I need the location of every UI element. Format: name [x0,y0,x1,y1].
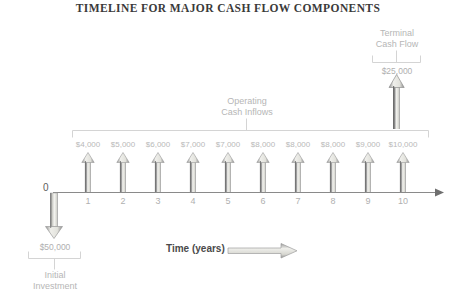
axis-tick-5: 5 [218,196,238,206]
inflow-arrow-1 [82,153,94,193]
initial-group-label: Initial Investment [15,270,95,292]
operating-bracket [73,119,429,138]
terminal-group-label-line1: Terminal [380,28,414,38]
initial-amount: $50,000 [29,242,81,252]
initial-investment-arrow [46,193,63,239]
amount-label-10: $10,000 [381,140,425,149]
amount-label-1: $4,000 [68,140,108,149]
amount-label-3: $6,000 [138,140,178,149]
operating-group-label-line2: Cash Inflows [221,107,273,117]
inflow-arrow-8 [327,153,339,193]
timeline-diagram: TIMELINE FOR MAJOR CASH FLOW COMPONENTS [0,0,456,303]
inflow-arrow-9 [362,153,374,193]
initial-bracket [29,252,81,270]
axis-tick-7: 7 [288,196,308,206]
inflow-arrow-3 [152,153,164,193]
terminal-cashflow-arrow [389,75,404,130]
terminal-amount: $25,000 [371,66,423,76]
amount-label-4: $7,000 [173,140,213,149]
axis-tick-10: 10 [393,196,413,206]
initial-group-label-line1: Initial [44,270,65,280]
axis-tick-9: 9 [358,196,378,206]
amount-label-2: $5,000 [103,140,143,149]
axis-tick-4: 4 [183,196,203,206]
amount-label-5: $7,000 [208,140,248,149]
initial-group-label-line2: Investment [33,281,77,291]
axis-tick-3: 3 [148,196,168,206]
time-axis [53,189,444,197]
inflow-arrow-2 [117,153,129,193]
inflow-arrow-5 [222,153,234,193]
operating-group-label-line1: Operating [227,96,267,106]
inflow-arrow-10 [397,153,409,193]
operating-inflow-arrows [82,153,409,193]
axis-tick-8: 8 [323,196,343,206]
time-direction-arrow [228,244,297,259]
time-axis-label: Time (years) [166,243,225,254]
amount-label-6: $8,000 [243,140,283,149]
axis-tick-1: 1 [78,196,98,206]
axis-zero-label: 0 [43,182,49,193]
terminal-group-label: Terminal Cash Flow [357,28,437,50]
inflow-arrow-7 [292,153,304,193]
axis-tick-6: 6 [253,196,273,206]
inflow-arrow-4 [187,153,199,193]
terminal-group-label-line2: Cash Flow [376,39,419,49]
amount-label-8: $8,000 [313,140,353,149]
axis-tick-2: 2 [113,196,133,206]
inflow-arrow-6 [257,153,269,193]
operating-group-label: Operating Cash Inflows [206,96,288,118]
amount-label-7: $8,000 [278,140,318,149]
terminal-bracket [373,51,421,63]
